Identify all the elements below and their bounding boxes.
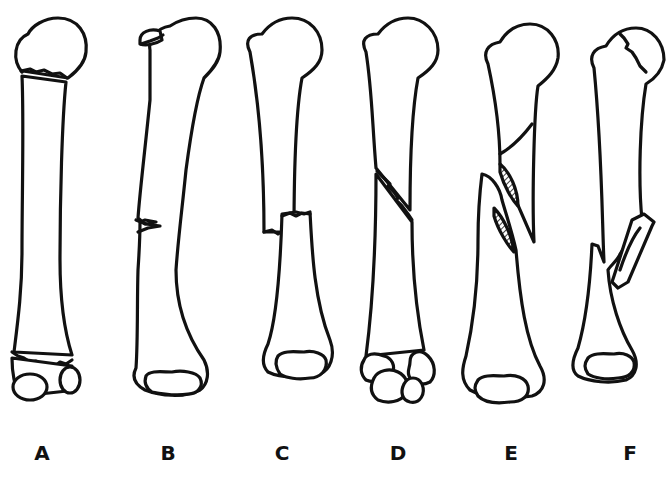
bone-f: [573, 28, 664, 382]
bone-a-shaft: [14, 76, 72, 355]
fracture-diagram: [0, 0, 669, 486]
bone-a-condyle-left: [13, 374, 47, 400]
bone-d-lower: [366, 174, 424, 356]
bone-d: [361, 18, 438, 402]
panel-label-f: F: [623, 441, 637, 465]
bone-b-condyle: [145, 371, 201, 395]
bone-c-upper: [248, 18, 322, 232]
bone-b-main: [134, 18, 220, 395]
bone-f-condyle: [585, 353, 634, 378]
bone-e: [463, 24, 558, 403]
bone-c: [248, 18, 333, 379]
panel-label-c: C: [275, 441, 290, 465]
bone-b: [134, 18, 220, 395]
panel-label-a: A: [34, 441, 49, 465]
panel-label-e: E: [504, 441, 518, 465]
panel-label-d: D: [390, 441, 407, 465]
bone-f-main: [573, 28, 664, 382]
bone-e-condyle: [475, 375, 528, 402]
bone-d-fragment-right-lower: [402, 378, 423, 402]
panel-label-b: B: [160, 441, 175, 465]
bone-a-condyle-right: [60, 367, 80, 393]
bone-c-condyle: [276, 351, 326, 378]
bone-a: [12, 18, 86, 400]
